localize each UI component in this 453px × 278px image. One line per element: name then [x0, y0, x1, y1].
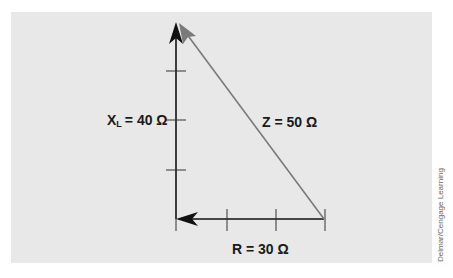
z-label: Z = 50 Ω — [262, 114, 317, 130]
credit-text: Delmar/Cengage Learning — [436, 168, 445, 262]
xl-label: XL= 40 Ω — [107, 112, 168, 129]
impedance-triangle: XL= 40 Ω Z = 50 Ω R = 30 Ω — [0, 0, 453, 278]
r-label: R = 30 Ω — [232, 241, 289, 257]
